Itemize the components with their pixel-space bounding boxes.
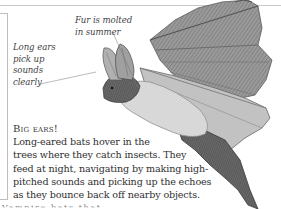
annotation-ears-line: sounds: [13, 65, 55, 77]
caption-frame-left: [7, 13, 8, 200]
annotation-fur-line: Fur is molted: [75, 15, 132, 27]
caption-box: Big ears! Long-eared bats hover in the t…: [13, 122, 263, 201]
frame-bottom-tick: [0, 199, 8, 200]
caption-heading: Big ears!: [13, 122, 263, 135]
caption-line: as they bounce back off nearby objects.: [13, 188, 263, 201]
annotation-ears-line: Long ears: [13, 42, 55, 54]
annotation-ears-line: pick up: [13, 54, 55, 66]
annotation-fur-line: in summer: [75, 27, 132, 39]
annotation-fur: Fur is molted in summer: [75, 15, 132, 38]
caption-line: Long-eared bats hover in the: [13, 135, 263, 148]
caption-line: trees where they catch insects. They: [13, 148, 263, 161]
bat-ears: [103, 44, 134, 80]
caption-line: feed at night, navigating by making high…: [13, 162, 263, 175]
caption-line: pitched sounds and picking up the echoes: [13, 175, 263, 188]
annotation-ears: Long ears pick up sounds clearly: [13, 42, 55, 88]
annotation-ears-line: clearly: [13, 77, 55, 89]
